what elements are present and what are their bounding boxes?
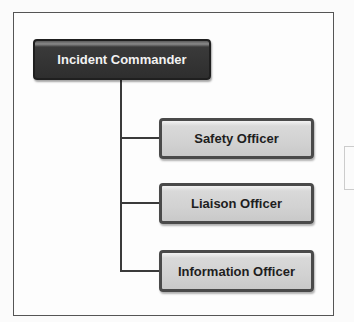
partial-offscreen-element [344, 146, 354, 190]
safety-officer-box: Safety Officer [159, 118, 314, 159]
liaison-officer-label: Liaison Officer [191, 196, 282, 211]
connector-liaison [120, 202, 160, 204]
connector-information [120, 270, 160, 272]
safety-officer-label: Safety Officer [194, 131, 279, 146]
connector-safety [120, 137, 160, 139]
trunk-connector [120, 79, 122, 272]
incident-commander-box: Incident Commander [33, 39, 211, 80]
liaison-officer-box: Liaison Officer [159, 183, 314, 224]
information-officer-box: Information Officer [159, 250, 314, 292]
incident-commander-label: Incident Commander [57, 52, 186, 67]
information-officer-label: Information Officer [178, 264, 295, 279]
